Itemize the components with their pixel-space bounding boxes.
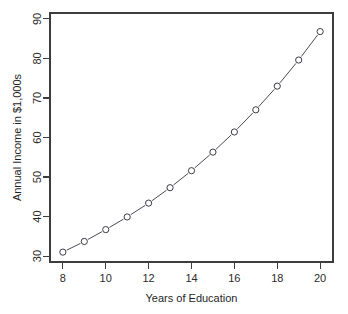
y-tick-label: 40 — [31, 210, 43, 222]
data-point — [188, 168, 194, 174]
series-segment — [259, 89, 275, 106]
x-tick-label: 16 — [228, 272, 240, 284]
x-tick-label: 8 — [60, 272, 66, 284]
series-segment — [67, 243, 81, 250]
series-segment — [109, 219, 123, 227]
data-point — [296, 57, 302, 63]
series-segment — [173, 173, 188, 185]
y-axis-title: Annual Income in $1,000s — [11, 73, 23, 201]
data-point — [167, 185, 173, 191]
data-point — [317, 28, 323, 34]
y-tick-label: 80 — [31, 52, 43, 64]
y-tick-label: 50 — [31, 171, 43, 183]
data-point — [103, 226, 109, 232]
data-point — [253, 107, 259, 113]
data-point — [231, 129, 237, 135]
data-point — [146, 200, 152, 206]
chart-figure: 810121416182030405060708090Years of Educ… — [0, 0, 348, 314]
y-tick-label: 30 — [31, 250, 43, 262]
series-segment — [131, 205, 145, 214]
x-tick-label: 14 — [185, 272, 197, 284]
x-tick-label: 18 — [271, 272, 283, 284]
plot-frame — [50, 13, 333, 262]
x-axis-title: Years of Education — [146, 292, 238, 304]
series-segment — [301, 35, 317, 57]
series-segment — [88, 232, 102, 240]
y-tick-label: 60 — [31, 131, 43, 143]
data-point — [274, 83, 280, 89]
series-segment — [152, 190, 166, 200]
data-point — [60, 249, 66, 255]
data-point — [210, 149, 216, 155]
series-segment — [216, 135, 231, 149]
x-tick-label: 10 — [100, 272, 112, 284]
x-tick-label: 20 — [314, 272, 326, 284]
x-tick-label: 12 — [142, 272, 154, 284]
data-point — [124, 214, 130, 220]
series-segment — [280, 63, 296, 82]
y-tick-label: 70 — [31, 92, 43, 104]
y-tick-label: 90 — [31, 13, 43, 25]
series-segment — [237, 113, 252, 129]
series-segment — [195, 155, 210, 168]
data-point — [81, 238, 87, 244]
chart-canvas: 810121416182030405060708090Years of Educ… — [0, 0, 348, 314]
